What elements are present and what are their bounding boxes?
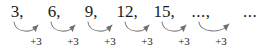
arrowhead-icon-3 (105, 23, 114, 32)
sequence-term-ellipsis-trailing: ... (239, 2, 261, 22)
sequence-term-5: 15, (152, 2, 176, 22)
arrowhead-icon-4 (142, 23, 151, 32)
sequence-term-3: 9, (82, 2, 100, 22)
sequence-term-4: 12, (115, 2, 139, 22)
step-label-1: +3 (23, 35, 49, 48)
arrowhead-icon-5 (179, 23, 188, 32)
arrowhead-icon-6 (222, 22, 231, 31)
sequence-term-2: 6, (45, 2, 63, 22)
arrow-arcs (14, 22, 229, 31)
sequence-diagram: 3, 6, 9, 12, 15, ..., ... +3 +3 +3 +3 +3… (0, 0, 268, 50)
step-label-3: +3 (97, 35, 123, 48)
step-label-4: +3 (134, 35, 160, 48)
arrowhead-icon-1 (31, 23, 40, 32)
step-label-6: +3 (208, 35, 234, 48)
sequence-term-1: 3, (8, 2, 26, 22)
step-label-5: +3 (171, 35, 197, 48)
arrowhead-icon-2 (68, 23, 77, 32)
step-label-2: +3 (60, 35, 86, 48)
sequence-term-ellipsis-inline: ..., (189, 2, 213, 22)
